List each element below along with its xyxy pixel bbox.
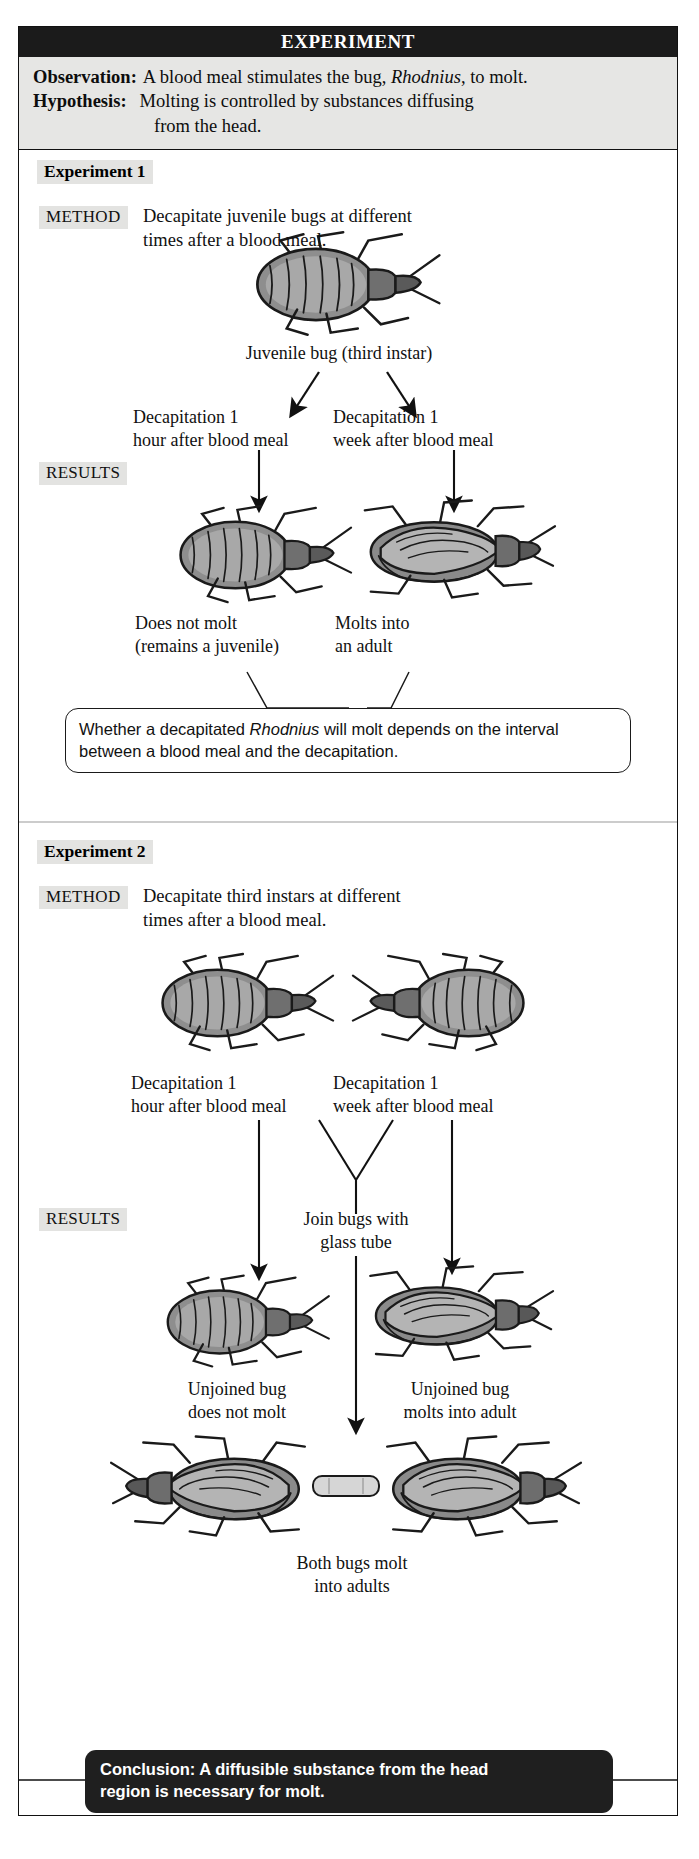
experiment-1-result-right-label: Molts into an adult xyxy=(335,612,535,658)
bug-illustration-exp2-unjoined-adult xyxy=(370,1267,553,1360)
figure-body: Experiment 1 METHOD Decapitate juvenile … xyxy=(19,150,677,1838)
arrow-split-right xyxy=(387,372,409,406)
experiment-1-branch-left-label: Decapitation 1 hour after blood meal xyxy=(133,406,343,452)
glass-tube-connector xyxy=(313,1476,379,1496)
callout-species-name: Rhodnius xyxy=(250,720,320,738)
experiment-2-result-right-label: Unjoined bug molts into adult xyxy=(345,1378,575,1424)
join-bugs-label: Join bugs with glass tube xyxy=(241,1208,471,1254)
premise-block: Observation: A blood meal stimulates the… xyxy=(19,57,677,150)
experiment-1-results-label: RESULTS xyxy=(39,462,127,485)
experiment-1-title: Experiment 1 xyxy=(37,160,153,184)
callout-tail-right xyxy=(367,672,409,708)
hypothesis-label: Hypothesis: xyxy=(33,89,134,113)
experiment-1-subject-caption: Juvenile bug (third instar) xyxy=(179,342,499,365)
bug-illustration-exp2-left-juvenile xyxy=(163,954,334,1050)
species-name-rhodnius: Rhodnius xyxy=(391,67,461,87)
experiment-2-branch-left-label: Decapitation 1 hour after blood meal xyxy=(131,1072,341,1118)
hypothesis-text-line2: from the head. xyxy=(33,114,663,138)
line-join-right-branch xyxy=(356,1120,393,1180)
experiment-1-result-left-label: Does not molt (remains a juvenile) xyxy=(135,612,345,658)
callout-tail-left xyxy=(247,672,349,708)
experiment-2-method-text: Decapitate third instars at different ti… xyxy=(143,884,543,932)
arrow-split-left xyxy=(297,372,319,406)
observation-text: A blood meal stimulates the bug, Rhodniu… xyxy=(137,65,528,89)
bug-illustration-joined-adult-left xyxy=(111,1437,305,1536)
experiment-figure-panel: EXPERIMENT Observation: A blood meal sti… xyxy=(18,26,678,1816)
experiment-1-method-label: METHOD xyxy=(39,206,128,229)
bug-illustration-exp2-right-juvenile xyxy=(353,954,524,1050)
bug-illustration-adult-molted xyxy=(365,501,555,598)
experiment-1-callout-box: Whether a decapitated Rhodnius will molt… xyxy=(65,708,631,773)
experiment-2-title: Experiment 2 xyxy=(37,840,153,864)
conclusion-banner: Conclusion: A diffusible substance from … xyxy=(85,1750,613,1813)
experiment-2-result-left-label: Unjoined bug does not molt xyxy=(127,1378,347,1424)
line-join-left-branch xyxy=(319,1120,356,1180)
experiment-1-method-text: Decapitate juvenile bugs at different ti… xyxy=(143,204,523,252)
experiment-1-branch-right-label: Decapitation 1 week after blood meal xyxy=(333,406,553,452)
observation-row: Observation: A blood meal stimulates the… xyxy=(33,65,663,89)
experiment-header-bar: EXPERIMENT xyxy=(19,27,677,57)
observation-label: Observation: xyxy=(33,65,137,89)
experiment-2-branch-right-label: Decapitation 1 week after blood meal xyxy=(333,1072,553,1118)
experiment-2-results-label: RESULTS xyxy=(39,1208,127,1231)
hypothesis-text-line1: Molting is controlled by substances diff… xyxy=(134,89,474,113)
experiment-2-joined-result-label: Both bugs molt into adults xyxy=(227,1552,477,1598)
experiment-header-title: EXPERIMENT xyxy=(281,31,415,53)
bug-illustration-juvenile-no-molt xyxy=(181,506,352,602)
bug-illustration-joined-adult-right xyxy=(387,1437,581,1536)
experiment-2-method-label: METHOD xyxy=(39,886,128,909)
bug-illustration-exp2-unjoined-juvenile xyxy=(168,1276,329,1367)
hypothesis-row: Hypothesis: Molting is controlled by sub… xyxy=(33,89,663,113)
